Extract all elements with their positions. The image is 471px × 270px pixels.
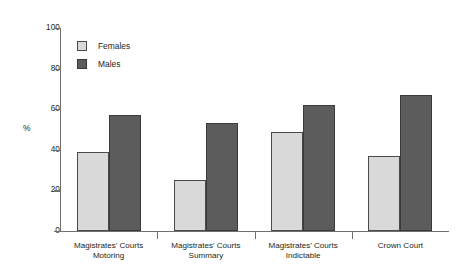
y-axis-tick: 60 bbox=[22, 105, 60, 106]
x-axis-label-line1: Magistrates' Courts bbox=[74, 241, 143, 250]
legend-swatch-males-icon bbox=[77, 59, 87, 69]
bar-females-group-3 bbox=[271, 132, 303, 231]
chart-legend: Females Males bbox=[77, 37, 130, 73]
bar-females-group-4 bbox=[368, 156, 400, 231]
x-axis-group-separator bbox=[352, 232, 353, 239]
x-axis-label-line2: Motoring bbox=[60, 251, 157, 261]
y-axis-tick: 0 bbox=[22, 227, 60, 228]
bar-females-group-1 bbox=[77, 152, 109, 231]
bar-males-group-2 bbox=[206, 123, 238, 231]
legend-label-females: Females bbox=[98, 42, 130, 51]
bar-chart: 020406080100 % Magistrates' CourtsMotori… bbox=[0, 0, 471, 270]
x-axis-label-line1: Magistrates' Courts bbox=[171, 241, 240, 250]
y-axis-tick: 20 bbox=[22, 186, 60, 187]
y-axis-tick: 40 bbox=[22, 146, 60, 147]
x-axis-label-line2: Indictable bbox=[255, 251, 352, 261]
x-axis-label-group-2: Magistrates' CourtsSummary bbox=[157, 241, 254, 261]
x-axis-label-line1: Crown Court bbox=[378, 241, 423, 250]
x-axis-group-separator bbox=[157, 232, 158, 239]
legend-item-males: Males bbox=[77, 55, 130, 73]
legend-label-males: Males bbox=[98, 60, 120, 69]
legend-swatch-females-icon bbox=[77, 41, 87, 51]
legend-item-females: Females bbox=[77, 37, 130, 55]
x-axis-label-group-3: Magistrates' CourtsIndictable bbox=[255, 241, 352, 261]
bar-females-group-2 bbox=[174, 180, 206, 231]
y-axis-title: % bbox=[23, 124, 30, 133]
x-axis-label-group-1: Magistrates' CourtsMotoring bbox=[60, 241, 157, 261]
y-axis-tick: 100 bbox=[22, 24, 60, 25]
bar-males-group-3 bbox=[303, 105, 335, 231]
bar-males-group-1 bbox=[109, 115, 141, 231]
x-axis-label-group-4: Crown Court bbox=[352, 241, 449, 251]
bar-males-group-4 bbox=[400, 95, 432, 231]
x-axis-label-line1: Magistrates' Courts bbox=[268, 241, 337, 250]
y-axis-tick: 80 bbox=[22, 65, 60, 66]
x-axis-label-line2: Summary bbox=[157, 251, 254, 261]
x-axis-group-separator bbox=[255, 232, 256, 239]
